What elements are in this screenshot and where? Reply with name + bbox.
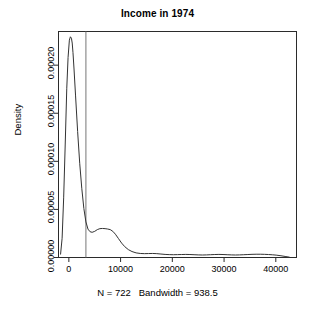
y-tick-label: 0.00000: [46, 234, 56, 278]
x-tick-label: 40000: [246, 264, 306, 274]
y-tick-label: 0.00010: [46, 137, 56, 181]
x-axis-ticks: [69, 258, 276, 263]
y-tick-label: 0.00005: [46, 185, 56, 229]
y-tick-label: 0.00020: [46, 41, 56, 85]
density-curve: [61, 37, 290, 257]
density-curve-line: [61, 37, 290, 257]
plot-frame: [59, 32, 297, 258]
density-plot: Income in 1974 Density 01000020000300004…: [0, 0, 315, 311]
chart-subtitle: N = 722 Bandwidth = 938.5: [0, 287, 315, 298]
y-tick-label: 0.00015: [46, 89, 56, 133]
